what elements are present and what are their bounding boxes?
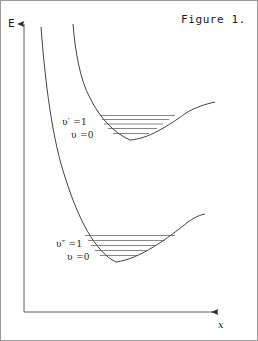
excited-state-v0-label: υ =0 xyxy=(71,131,94,140)
potential-energy-diagram xyxy=(0,0,258,341)
y-axis-label: E xyxy=(8,18,15,29)
ground-state-v0-label: υ =0 xyxy=(67,253,90,262)
excited-state-energy-levels xyxy=(100,116,175,134)
ground-state-potential-curve xyxy=(41,27,205,262)
excited-state-well xyxy=(73,24,215,140)
x-axis-label: x xyxy=(218,320,224,330)
excited-state-potential-curve xyxy=(73,24,215,140)
ground-state-v1-label: υ″ =1 xyxy=(56,240,82,249)
figure-panel: Figure 1. E x υ′ =1 υ =0 υ″ =1 υ =0 xyxy=(0,0,258,341)
excited-state-v1-label: υ′ =1 xyxy=(62,118,87,127)
ground-state-well xyxy=(41,27,205,262)
axes xyxy=(24,24,218,312)
figure-caption: Figure 1. xyxy=(181,14,246,25)
ground-state-energy-levels xyxy=(85,236,175,256)
